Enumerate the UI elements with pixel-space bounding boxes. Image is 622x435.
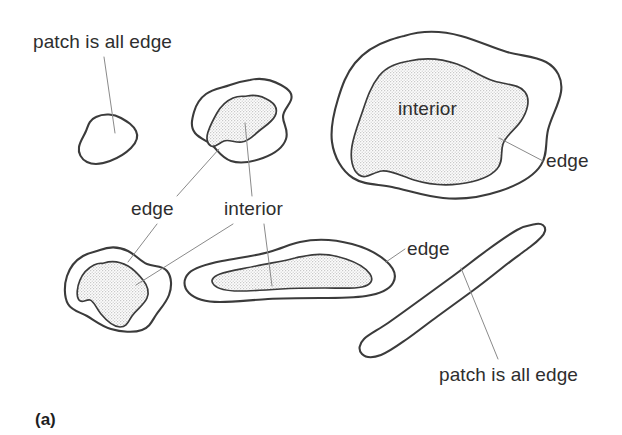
label-patch-is-all-edge-bottom: patch is all edge xyxy=(439,365,578,384)
label-interior-large-blob: interior xyxy=(398,99,457,118)
label-edge-elongated-blob: edge xyxy=(407,239,450,258)
label-patch-is-all-edge-top: patch is all edge xyxy=(33,32,172,51)
leader-edge-elongated xyxy=(386,249,405,262)
label-interior-mid: interior xyxy=(224,199,283,218)
figure-caption: (a) xyxy=(35,411,56,428)
label-edge-large-blob: edge xyxy=(546,151,589,170)
shape-small-blob-top-left xyxy=(79,114,137,163)
small-blob-outline xyxy=(79,114,137,163)
leader-edge-mid-left xyxy=(177,149,219,196)
figure-panel-a: patch is all edge edge interior interior… xyxy=(0,0,622,435)
shape-medium-blob-top-middle xyxy=(192,79,292,163)
thin-strip-outline xyxy=(360,224,546,357)
label-edge-mid-left: edge xyxy=(131,199,174,218)
shape-medium-blob-bottom-left xyxy=(65,247,171,331)
leader-edge-bottom-left xyxy=(128,224,157,262)
shape-elongated-blob xyxy=(185,240,395,302)
shape-thin-strip xyxy=(360,224,546,357)
